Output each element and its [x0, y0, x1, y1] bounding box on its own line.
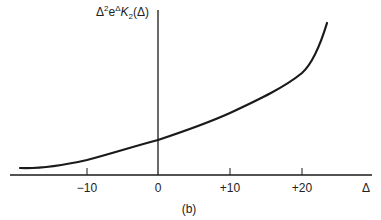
x-tick-label: 0: [155, 181, 162, 195]
data-curve: [20, 23, 327, 168]
y-axis-label: Δ2eΔK2(Δ): [96, 4, 149, 21]
x-tick-label: −10: [77, 181, 98, 195]
x-ticks: [87, 168, 302, 175]
x-tick-label: +20: [292, 181, 313, 195]
chart-canvas: −10 0 +10 +20 Δ Δ2eΔK2(Δ) (b): [0, 0, 381, 220]
panel-label: (b): [182, 202, 197, 216]
x-axis-label: Δ: [362, 181, 370, 195]
x-tick-label: +10: [220, 181, 241, 195]
